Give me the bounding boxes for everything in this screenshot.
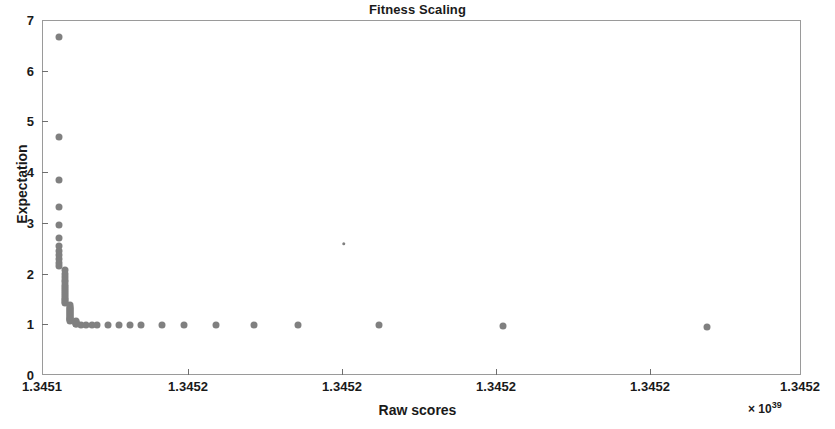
y-tick-mark (42, 121, 48, 122)
data-point (56, 203, 63, 210)
x-tick-label: 1.3452 (451, 379, 541, 394)
data-point (56, 177, 63, 184)
data-point (126, 322, 133, 329)
y-tick-mark (42, 172, 48, 173)
data-point (251, 322, 258, 329)
x-tick-mark (342, 369, 343, 375)
x-axis-exponent: × 1039 (748, 400, 782, 416)
data-point (180, 322, 187, 329)
x-axis-exponent-power: 39 (772, 400, 782, 410)
data-point (704, 324, 711, 331)
y-tick-label: 7 (0, 13, 34, 28)
data-point (56, 34, 63, 41)
y-tick-mark (42, 71, 48, 72)
data-point (56, 133, 63, 140)
data-point (294, 322, 301, 329)
chart-canvas: Fitness Scaling 01234567 1.34511.34521.3… (0, 0, 835, 429)
data-point (56, 234, 63, 241)
y-tick-mark (42, 223, 48, 224)
y-axis-title: Expectation (14, 84, 30, 284)
y-tick-label: 1 (0, 317, 34, 332)
data-point (137, 322, 144, 329)
chart-title: Fitness Scaling (0, 2, 835, 17)
x-tick-label: 1.3452 (605, 379, 695, 394)
data-point (94, 322, 101, 329)
x-tick-mark (650, 369, 651, 375)
y-tick-label: 6 (0, 63, 34, 78)
data-point (342, 242, 346, 246)
y-tick-mark (42, 324, 48, 325)
data-point (213, 322, 220, 329)
x-axis-exponent-prefix: × 10 (748, 402, 772, 416)
plot-area (43, 21, 800, 374)
data-point (376, 322, 383, 329)
data-point (115, 322, 122, 329)
data-point (105, 322, 112, 329)
x-tick-label: 1.3452 (297, 379, 387, 394)
x-axis-title: Raw scores (0, 402, 835, 418)
x-tick-label: 1.3451 (0, 379, 87, 394)
data-point (499, 322, 506, 329)
data-point (159, 322, 166, 329)
y-tick-mark (42, 274, 48, 275)
x-tick-label: 1.3452 (143, 379, 233, 394)
x-tick-label: 1.3452 (755, 379, 835, 394)
data-point (56, 221, 63, 228)
plot-frame (42, 20, 801, 375)
x-tick-mark (496, 369, 497, 375)
x-tick-mark (188, 369, 189, 375)
